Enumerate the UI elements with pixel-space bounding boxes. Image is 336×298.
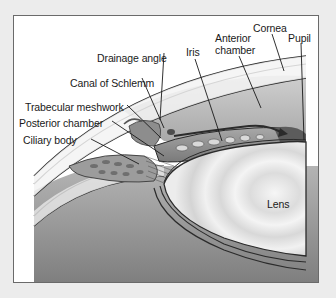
label-anterior-chamber-line1: Anterior (215, 32, 251, 44)
label-iris: Iris (186, 46, 200, 58)
label-ciliary-body: Ciliary body (23, 134, 77, 146)
label-canal-of-schlemm: Canal of Schlemm (70, 77, 154, 89)
canal-of-schlemm-shape (167, 129, 175, 135)
label-anterior-chamber-line2: chamber (215, 44, 255, 56)
label-posterior-chamber: Posterior chamber (19, 117, 103, 129)
label-lens: Lens (267, 198, 289, 210)
label-drainage-angle: Drainage angle (97, 52, 167, 64)
label-pupil: Pupil (288, 32, 311, 44)
label-trabecular-meshwork: Trabecular meshwork (25, 101, 124, 113)
label-cornea: Cornea (253, 22, 287, 34)
diagram-frame: Drainage angle Canal of Schlemm Trabecul… (13, 15, 319, 283)
